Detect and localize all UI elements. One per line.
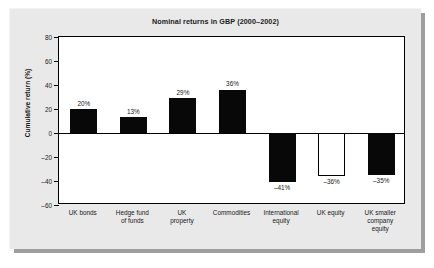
bar-value-label: 36%	[226, 80, 239, 87]
bar	[269, 133, 296, 182]
bar-value-label: 20%	[77, 100, 90, 107]
bar	[318, 133, 345, 176]
y-tick-mark	[54, 85, 59, 86]
y-tick-mark	[54, 109, 59, 110]
bar	[219, 90, 246, 133]
bar-value-label: –36%	[323, 178, 339, 185]
x-axis-category-label: UK smallercompanyequity	[352, 209, 408, 234]
y-tick-label: 60	[45, 58, 52, 65]
y-axis-title: Cumulative return (%)	[21, 48, 33, 158]
y-tick-mark	[54, 157, 59, 158]
y-tick-label: –40	[41, 178, 52, 185]
y-tick-label: 0	[48, 130, 52, 137]
x-axis-category-label: Commodities	[204, 209, 260, 217]
x-axis-labels: UK bondsHedge fundof fundsUKpropertyComm…	[58, 209, 405, 249]
y-tick-label: 80	[45, 34, 52, 41]
x-axis-category-label: UK bonds	[55, 209, 111, 217]
plot-area: 806040200–20–40–60 20%13%29%36%–41%–36%–…	[58, 36, 405, 204]
screenshot-root: Nominal returns in GBP (2000–2002) Cumul…	[0, 0, 434, 268]
y-tick-mark	[54, 61, 59, 62]
chart-card: Nominal returns in GBP (2000–2002) Cumul…	[9, 8, 421, 249]
bar-value-label: –41%	[274, 184, 290, 191]
y-tick-label: 40	[45, 82, 52, 89]
chart-title: Nominal returns in GBP (2000–2002)	[10, 17, 421, 26]
bar	[70, 109, 97, 133]
y-tick-mark	[54, 37, 59, 38]
y-tick-mark	[54, 205, 59, 206]
bar-value-label: 13%	[127, 108, 140, 115]
x-axis-category-label: Internationalequity	[253, 209, 309, 225]
x-axis-category-label: UK equity	[303, 209, 359, 217]
bar	[368, 133, 395, 175]
y-tick-label: –60	[41, 202, 52, 209]
bar-value-label: 29%	[177, 89, 190, 96]
y-tick-mark	[54, 181, 59, 182]
x-axis-category-label: UKproperty	[154, 209, 210, 225]
y-tick-label: 20	[45, 106, 52, 113]
y-axis-title-label: Cumulative return (%)	[24, 69, 31, 138]
zero-line	[59, 133, 404, 134]
bar	[169, 98, 196, 133]
bar	[120, 117, 147, 133]
x-axis-category-label: Hedge fundof funds	[104, 209, 160, 225]
bar-value-label: –35%	[373, 177, 389, 184]
y-tick-label: –20	[41, 154, 52, 161]
